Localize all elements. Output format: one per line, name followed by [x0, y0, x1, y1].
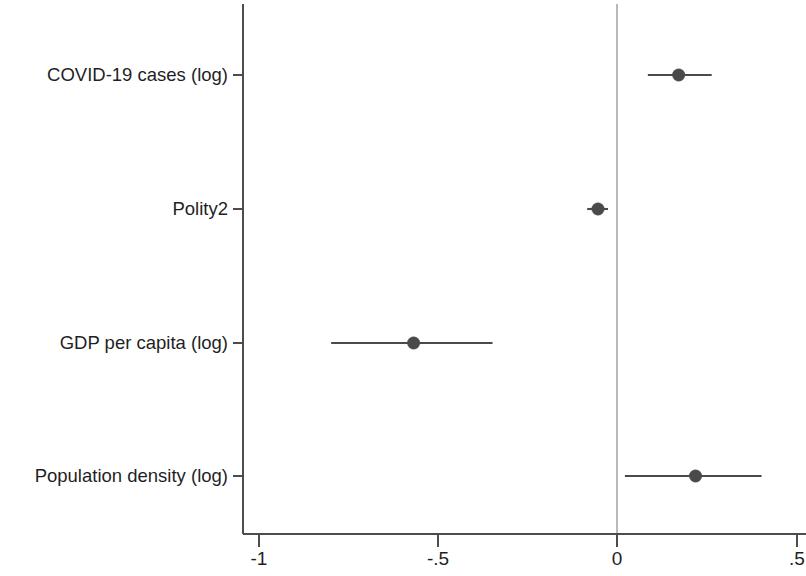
y-axis-ticks: [233, 75, 243, 476]
coefficient-plot-figure: COVID-19 cases (log) Polity2 GDP per cap…: [0, 0, 806, 576]
point-estimate-marker: [672, 69, 684, 81]
x-axis-ticks: [259, 534, 797, 547]
coefficient-series-layer: [331, 69, 761, 482]
coefficient-row-polity2: [587, 203, 608, 215]
category-label-polity2: Polity2: [172, 198, 228, 219]
point-estimate-marker: [407, 337, 419, 349]
coefficient-row-population-density-log: [625, 470, 762, 482]
category-label-popdensity: Population density (log): [35, 465, 228, 486]
x-tick-label-pos05: .5: [789, 548, 805, 569]
x-tick-label-neg05: -.5: [427, 548, 449, 569]
coefficient-row-covid-19-cases-log: [648, 69, 712, 81]
x-tick-label-neg1: -1: [251, 548, 268, 569]
x-tick-label-zero: 0: [612, 548, 623, 569]
category-label-covid: COVID-19 cases (log): [47, 64, 228, 85]
point-estimate-marker: [689, 470, 701, 482]
coefficient-plot-canvas: COVID-19 cases (log) Polity2 GDP per cap…: [0, 0, 806, 576]
category-label-gdp: GDP per capita (log): [60, 332, 228, 353]
point-estimate-marker: [592, 203, 604, 215]
coefficient-row-gdp-per-capita-log: [331, 337, 492, 349]
